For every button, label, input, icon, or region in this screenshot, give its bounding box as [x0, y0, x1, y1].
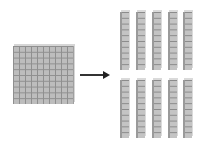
ten-rod: [183, 80, 192, 138]
ten-rod: [136, 12, 145, 70]
ten-rod: [152, 80, 161, 138]
hundred-flat-block: [13, 46, 74, 104]
right-arrow-icon: [80, 72, 110, 78]
ten-rod: [168, 12, 177, 70]
arrow-shaft: [80, 74, 104, 76]
ten-rod: [120, 80, 129, 138]
ten-rod: [183, 12, 192, 70]
ten-rod: [120, 12, 129, 70]
ten-rod: [136, 80, 145, 138]
ten-rod: [152, 12, 161, 70]
ten-rod: [168, 80, 177, 138]
arrow-head: [103, 71, 110, 79]
